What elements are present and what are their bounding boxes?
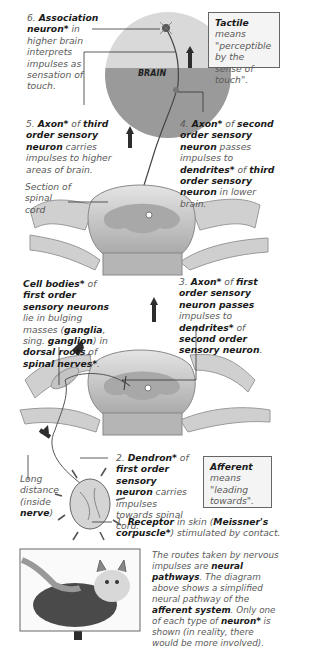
label-receptor: 1. Receptor in skin (Meissner's corpuscl… xyxy=(116,516,284,539)
caption-neural-pathways: The routes taken by nervous impulses are… xyxy=(152,550,282,649)
label-second-order-axon: 4. Axon* of second order sensory neuron … xyxy=(180,118,284,209)
label-first-order-axon: 3. Axon* of first order sensory neuron p… xyxy=(179,276,283,356)
brain-label: BRAIN xyxy=(138,69,166,78)
tactile-definition-box: Tactile means "perceptible by the sense … xyxy=(208,12,280,68)
cat-photo xyxy=(20,549,140,631)
label-third-order-axon: 5. Axon* of third order sensory neuron c… xyxy=(26,118,126,175)
afferent-definition-box: Afferent means "leading towards". xyxy=(203,456,272,508)
label-spinal-cord-section: Section of spinal cord xyxy=(25,181,75,215)
label-long-distance: Long distance (inside nerve) xyxy=(20,473,78,519)
label-association-neuron: 6. Association neuron* in higher brain i… xyxy=(27,12,102,92)
label-cell-bodies: Cell bodies* of first order sensory neur… xyxy=(23,278,118,369)
